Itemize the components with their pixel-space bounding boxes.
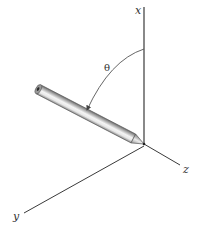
theta-arc [87,49,144,110]
origin-point [143,143,146,146]
rod [34,84,147,149]
y-axis-label: y [12,210,20,223]
coordinate-diagram: x z y θ [0,0,201,236]
z-axis [144,144,180,165]
z-axis-label: z [182,163,189,176]
y-axis [24,146,144,213]
theta-label: θ [104,62,110,73]
x-axis-label: x [135,4,142,17]
